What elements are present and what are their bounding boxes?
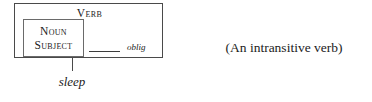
diagram-canvas: Verb Noun Subject oblig sleep (An intran… — [0, 0, 372, 102]
subject-role-label: Subject — [35, 38, 73, 52]
filler-link-line — [72, 58, 73, 71]
oblig-tag-label: oblig — [127, 40, 146, 54]
obligatory-slot: oblig — [89, 40, 161, 56]
noun-category-label: Noun — [40, 24, 67, 38]
verb-construction-box: Verb Noun Subject oblig — [14, 3, 163, 58]
slot-blank-rule — [89, 51, 120, 52]
gloss-annotation: (An intransitive verb) — [196, 39, 372, 57]
filler-word-label: sleep — [32, 74, 112, 90]
noun-subject-box: Noun Subject — [23, 19, 84, 57]
